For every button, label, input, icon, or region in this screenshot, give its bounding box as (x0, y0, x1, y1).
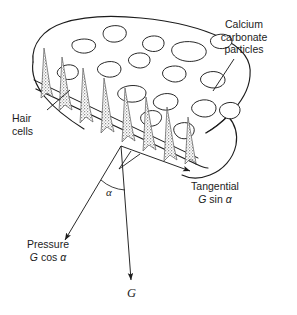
pressure-formula: G cos α (8, 251, 88, 264)
hair-line-1: Hair (12, 112, 72, 125)
otolith-force-diagram: Calcium carbonate particles Hair cells T… (0, 0, 297, 315)
leader-line-hair-cells-lower-a (119, 151, 131, 169)
calcium-carbonate-particle (143, 36, 165, 52)
pressure-g-symbol: G (30, 251, 38, 263)
calcium-carbonate-particle (141, 111, 162, 127)
tangential-alpha-symbol: α (226, 193, 232, 205)
calcium-carbonate-particle (128, 53, 150, 68)
pressure-line-1: Pressure (8, 238, 88, 251)
calcium-line-2: carbonate (198, 31, 290, 44)
calcium-carbonate-particle (72, 39, 96, 53)
calcium-carbonate-particle (118, 86, 146, 103)
pressure-alpha-symbol: α (60, 251, 66, 263)
label-hair-cells: Hair cells (12, 112, 72, 137)
tangential-line-1: Tangential (163, 180, 267, 193)
tangential-formula: G sin α (163, 193, 267, 206)
calcium-line-3: particles (198, 43, 290, 56)
label-tangential: Tangential G sin α (163, 180, 267, 205)
calcium-carbonate-particle (103, 26, 126, 43)
calcium-line-1: Calcium (198, 18, 290, 31)
calcium-carbonate-particle (220, 102, 241, 118)
tangential-sin-text: sin (206, 193, 222, 205)
vector-pressure (65, 146, 121, 240)
calcium-carbonate-particle (201, 72, 226, 88)
pressure-cos-text: cos (38, 251, 57, 263)
angle-arc-alpha (101, 180, 125, 190)
calcium-carbonate-particle (97, 62, 121, 78)
vector-gravity (121, 146, 131, 280)
label-pressure: Pressure G cos α (8, 238, 88, 263)
hair-line-2: cells (12, 125, 72, 138)
calcium-carbonate-particle (192, 100, 216, 117)
label-calcium-carbonate-particles: Calcium carbonate particles (198, 18, 290, 56)
label-gravity-g: G (127, 286, 136, 301)
label-angle-alpha: α (106, 186, 112, 198)
